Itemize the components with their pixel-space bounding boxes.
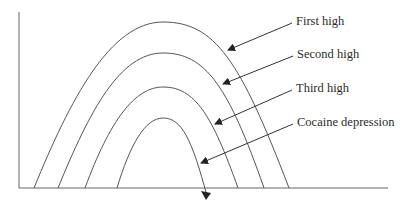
label-first-high: First high <box>296 15 344 28</box>
arrowhead-depression-bottom <box>201 191 211 200</box>
curve-cocaine-depression <box>117 118 207 196</box>
arrow-third-high <box>215 90 292 124</box>
label-third-high: Third high <box>296 82 349 95</box>
curve-second-high <box>58 53 264 188</box>
curve-first-high <box>34 22 289 188</box>
curve-third-high <box>85 87 238 188</box>
arrow-second-high <box>223 56 293 84</box>
label-cocaine-depression: Cocaine depression <box>297 116 395 129</box>
arrow-cocaine-depression <box>201 124 293 163</box>
label-second-high: Second high <box>297 48 359 61</box>
arrow-first-high <box>228 23 292 50</box>
cocaine-high-diagram <box>0 0 415 205</box>
